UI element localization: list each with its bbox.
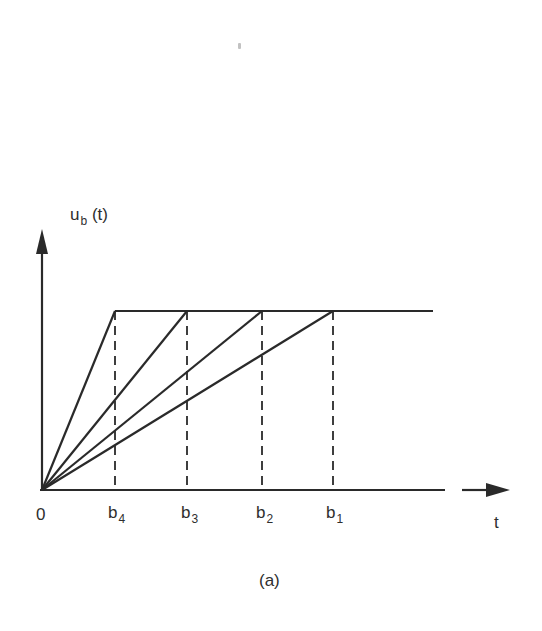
tick-b4-main: b <box>108 503 117 522</box>
tick-b1-sub: 1 <box>336 512 343 526</box>
y-axis-label-arg: (t) <box>87 205 108 224</box>
tick-label-b3: b3 <box>181 504 198 521</box>
tick-b3-main: b <box>181 503 190 522</box>
figure-caption: (a) <box>259 572 280 589</box>
origin-label: 0 <box>36 506 45 523</box>
x-axis-label: t <box>494 514 499 531</box>
y-axis-label-sub: b <box>80 214 87 228</box>
ramp-function-figure: ub (t) 0 b4 b3 b2 b1 t (a) <box>0 0 542 631</box>
tick-label-b1: b1 <box>326 504 343 521</box>
x-axis-arrow-icon <box>486 483 510 497</box>
ramp-b4 <box>42 311 115 490</box>
y-axis-arrow-icon <box>36 229 48 254</box>
y-axis-label: ub (t) <box>70 206 108 223</box>
ramp-b2 <box>42 311 262 490</box>
tick-b2-main: b <box>256 503 265 522</box>
tick-b1-main: b <box>326 503 335 522</box>
tick-b3-sub: 3 <box>191 512 198 526</box>
scan-speck <box>238 43 241 49</box>
tick-b2-sub: 2 <box>266 512 273 526</box>
tick-label-b4: b4 <box>108 504 125 521</box>
figure-drawing <box>0 0 542 631</box>
y-axis-label-main: u <box>70 205 79 224</box>
tick-label-b2: b2 <box>256 504 273 521</box>
tick-b4-sub: 4 <box>118 512 125 526</box>
